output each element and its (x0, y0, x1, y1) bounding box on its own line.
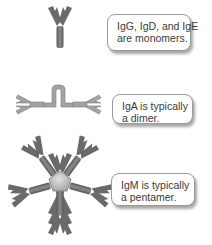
monomer-callout: IgG, IgD, and IgE are monomers. (107, 14, 191, 51)
dimer-callout-line-2: a dimer. (122, 112, 186, 124)
dimer-antibody-icon (16, 85, 101, 114)
pentamer-callout-line-2: a pentamer. (121, 191, 188, 203)
pentamer-callout-line-1: IgM is typically (121, 179, 188, 191)
monomer-callout-line-2: are monomers. (117, 32, 184, 44)
monomer-antibody-icon (48, 6, 72, 48)
dimer-callout-line-1: IgA is typically (122, 100, 186, 112)
monomer-callout-line-1: IgG, IgD, and IgE (117, 20, 184, 32)
pentamer-callout: IgM is typically a pentamer. (111, 173, 195, 206)
dimer-callout: IgA is typically a dimer. (112, 94, 193, 124)
